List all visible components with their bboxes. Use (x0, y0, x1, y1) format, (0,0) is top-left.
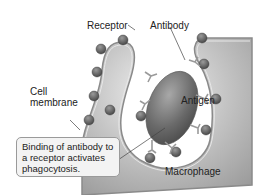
diagram-stage: Receptor Antibody Cell membrane Antigen … (0, 0, 270, 195)
antigen (136, 64, 207, 152)
callout-line-3: phagocytosis. (22, 163, 114, 174)
label-antigen: Antigen (181, 95, 215, 106)
label-receptor: Receptor (87, 20, 128, 31)
label-cell: Cell (30, 86, 47, 97)
callout-line-2: a receptor activates (22, 152, 114, 163)
callout-line-1: Binding of antibody to (22, 141, 114, 152)
callout-box: Binding of antibody to a receptor activa… (16, 137, 120, 177)
label-macrophage: Macrophage (165, 166, 221, 177)
label-antibody: Antibody (150, 20, 189, 31)
label-membrane: membrane (30, 97, 78, 108)
